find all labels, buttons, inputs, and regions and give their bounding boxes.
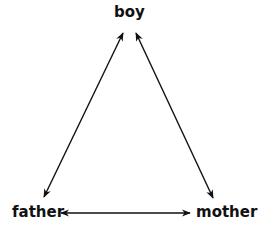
node-mother: mother <box>196 205 257 220</box>
node-boy: boy <box>114 5 145 20</box>
edge-boy-father-arrow <box>44 33 123 197</box>
edges-layer <box>0 0 262 234</box>
edge-boy-mother-arrow <box>136 33 213 198</box>
relationship-diagram: boy father mother <box>0 0 262 234</box>
node-father: father <box>12 205 64 220</box>
